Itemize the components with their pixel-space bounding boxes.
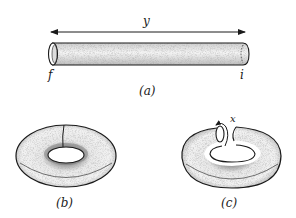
panel-a-tube (49, 32, 250, 65)
label-y: y (143, 15, 150, 27)
torus-b-hole (48, 147, 84, 163)
torus-c-cut-left (216, 126, 224, 142)
caption-b: (b) (56, 197, 73, 209)
caption-c: (c) (221, 197, 237, 209)
torus-c-hole (210, 145, 255, 162)
caption-a: (a) (139, 85, 156, 97)
label-i: i (240, 69, 244, 81)
diagram-canvas (0, 0, 296, 218)
label-f: f (48, 69, 52, 81)
panel-b-torus (16, 125, 116, 187)
label-x: x (230, 114, 236, 124)
panel-c-torus (182, 123, 281, 188)
